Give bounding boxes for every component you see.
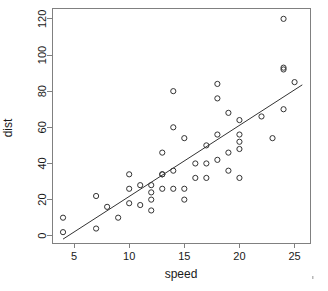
- y-tick-label-80: 80: [36, 85, 48, 97]
- y-tick-label-40: 40: [36, 157, 48, 169]
- scatter-plot-figure: 020406080100120 510152025 speed dist: [0, 0, 328, 291]
- y-tick-label-120: 120: [36, 10, 48, 28]
- x-tick-label-10: 10: [123, 250, 135, 262]
- corner-speck: [312, 276, 314, 279]
- x-tick-label-25: 25: [288, 250, 300, 262]
- y-tick-label-20: 20: [36, 193, 48, 205]
- plot-background: [0, 0, 328, 291]
- y-tick-label-0: 0: [36, 233, 48, 239]
- y-axis-title: dist: [1, 118, 15, 137]
- x-tick-label-20: 20: [233, 250, 245, 262]
- y-tick-label-100: 100: [36, 46, 48, 64]
- x-tick-label-5: 5: [71, 250, 77, 262]
- y-tick-label-60: 60: [36, 121, 48, 133]
- x-tick-label-15: 15: [178, 250, 190, 262]
- x-axis-title: speed: [165, 267, 198, 281]
- plot-canvas: 020406080100120 510152025 speed dist: [0, 0, 328, 291]
